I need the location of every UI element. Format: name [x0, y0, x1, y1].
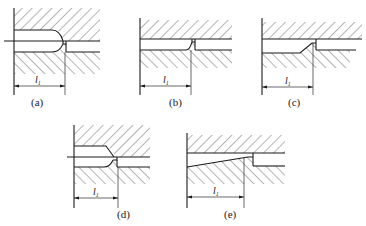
- dimension-label-l1: l1: [93, 186, 99, 198]
- bore-bottom-contour: [74, 160, 113, 167]
- upper-material-hatch: [262, 22, 362, 39]
- panel-a: l1 (a): [4, 8, 100, 109]
- lower-material-hatch: [262, 43, 350, 68]
- upper-material-hatch: [187, 135, 285, 153]
- upper-material-hatch: [74, 125, 150, 157]
- caption-b: (b): [169, 96, 182, 109]
- bore-top-chamfer: [74, 146, 114, 157]
- upper-material-hatch: [140, 20, 232, 39]
- caption-d: (d): [117, 208, 130, 221]
- caption-e: (e): [224, 208, 237, 221]
- lower-material-hatch: [74, 160, 150, 184]
- dimension-label-l1: l1: [213, 185, 219, 197]
- panel-b: l1 (b): [140, 18, 232, 109]
- lower-material-hatch: [140, 42, 232, 68]
- panel-d: l1 (d): [67, 125, 150, 221]
- panel-e: l1 (e): [187, 133, 285, 221]
- dimension-label-l1: l1: [35, 74, 41, 86]
- panel-c: l1 (c): [262, 18, 362, 109]
- dimension-label-l1: l1: [285, 75, 291, 87]
- caption-a: (a): [31, 96, 44, 109]
- dimension-label-l1: l1: [163, 74, 169, 86]
- bore-profile-diagram: l1 (a) l1 (b) l1 (c): [0, 0, 366, 226]
- bore-bottom-contour: [140, 42, 192, 50]
- caption-c: (c): [288, 96, 301, 109]
- lower-material-hatch: [187, 157, 285, 184]
